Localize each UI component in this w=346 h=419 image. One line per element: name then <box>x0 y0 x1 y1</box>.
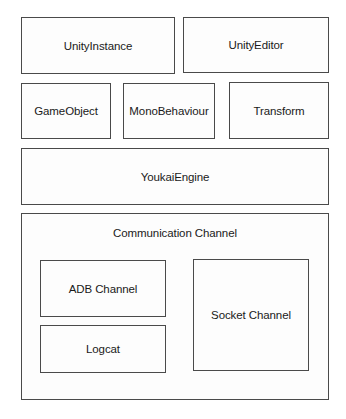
block-label: UnityInstance <box>64 40 132 52</box>
block-label: ADB Channel <box>69 283 138 295</box>
block-label: Socket Channel <box>211 309 291 321</box>
block-label: Transform <box>253 105 304 117</box>
block-socket-channel: Socket Channel <box>193 259 309 371</box>
block-label: YoukaiEngine <box>141 171 210 183</box>
block-adb-channel: ADB Channel <box>40 260 166 317</box>
block-label: MonoBehaviour <box>129 105 208 117</box>
block-logcat: Logcat <box>40 325 166 373</box>
block-unity-editor: UnityEditor <box>183 17 329 73</box>
block-unity-instance: UnityInstance <box>21 17 175 74</box>
communication-channel-title: Communication Channel <box>22 227 328 239</box>
block-label: Logcat <box>86 343 120 355</box>
block-transform: Transform <box>229 82 329 139</box>
block-label: GameObject <box>34 105 98 117</box>
block-label: UnityEditor <box>228 39 283 51</box>
block-mono-behaviour: MonoBehaviour <box>123 83 215 139</box>
block-youkai-engine: YoukaiEngine <box>21 148 329 205</box>
block-game-object: GameObject <box>21 83 111 139</box>
